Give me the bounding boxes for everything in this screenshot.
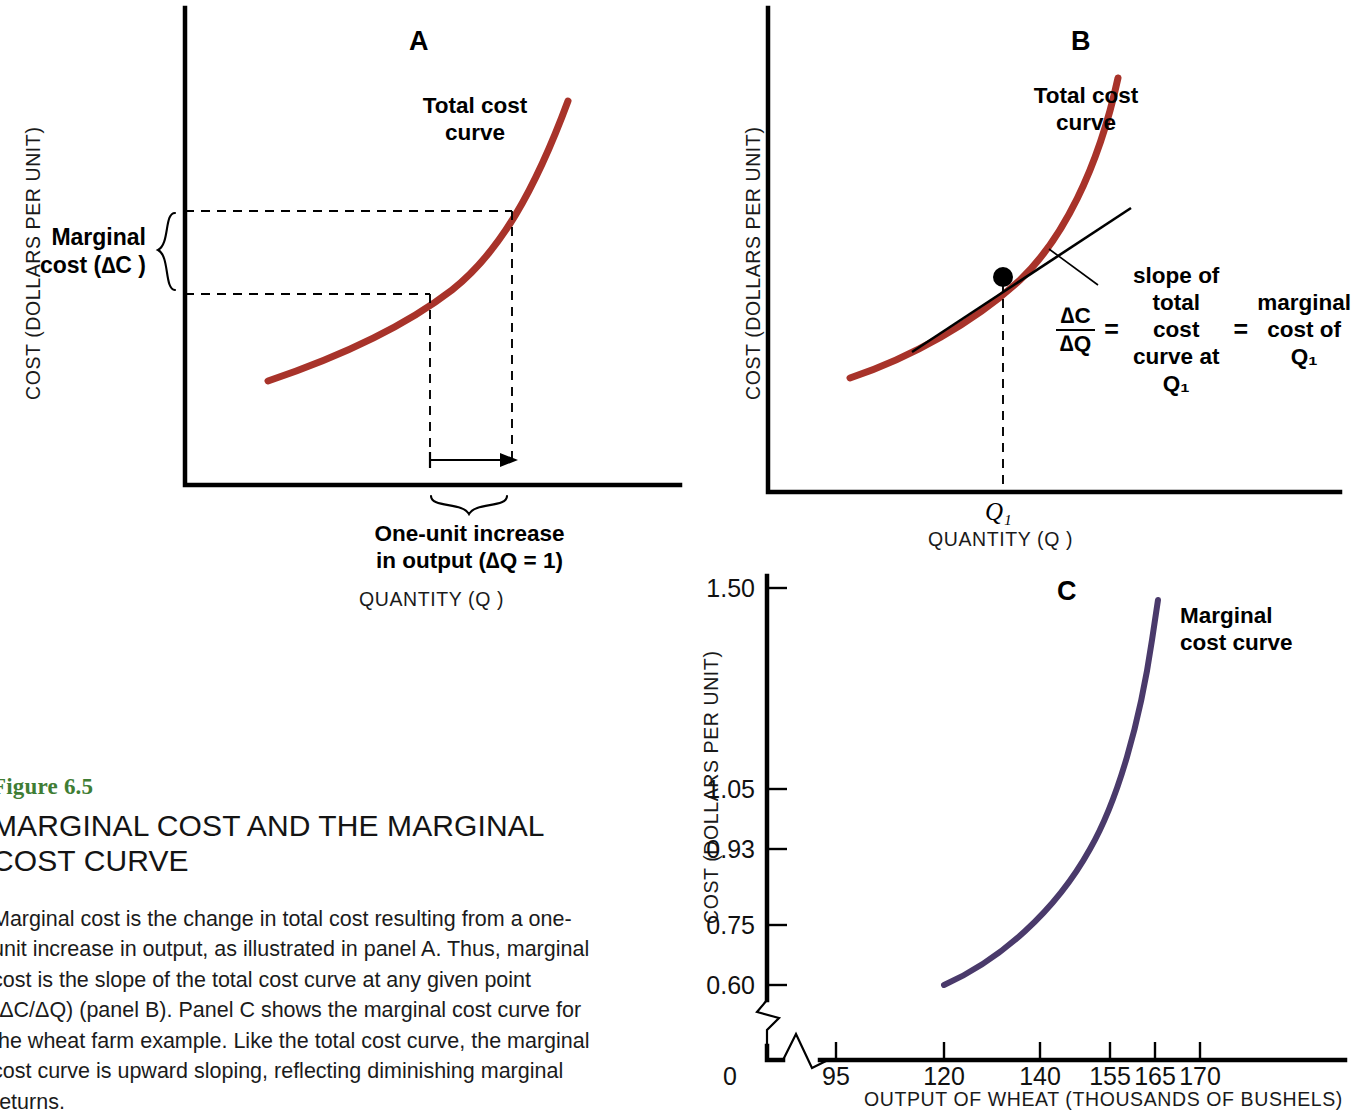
figure-body: Marginal cost is the change in total cos…: [0, 904, 632, 1111]
panel-c-x-tick-120: 120: [906, 1062, 982, 1091]
figure-number: Figure 6.5: [0, 774, 632, 800]
panel-c-y-tick-0-93: 0.93: [660, 835, 755, 864]
panel-c-x-ticks: [836, 1042, 1200, 1060]
caption-line-4: (ΔC/ΔQ) (panel B). Panel C shows the mar…: [0, 995, 632, 1026]
panel-c-x-tick-140: 140: [1002, 1062, 1078, 1091]
figure-6-5: A Total cost curve COST (DOLLARS PER UNI…: [0, 0, 1351, 1111]
panel-c-origin-corner: [767, 1046, 783, 1060]
caption-line-5: the wheat farm example. Like the total c…: [0, 1026, 632, 1057]
caption-line-1: Marginal cost is the change in total cos…: [0, 904, 632, 935]
caption-line-3: cost is the slope of the total cost curv…: [0, 965, 632, 996]
panel-c-letter: C: [1057, 576, 1077, 607]
panel-c-x-tick-95: 95: [806, 1062, 866, 1091]
figure-title: MARGINAL COST AND THE MARGINAL COST CURV…: [0, 809, 632, 879]
panel-c-y-tick-0-75: 0.75: [660, 911, 755, 940]
caption-line-7: returns.: [0, 1087, 632, 1111]
panel-c-x-tick-170: 170: [1162, 1062, 1238, 1091]
panel-c-marginal-cost-curve: [944, 600, 1158, 985]
panel-c-y-tick-0-60: 0.60: [660, 971, 755, 1000]
panel-c-y-ticks: [767, 588, 787, 985]
panel-c-y-axis-break: [757, 1000, 779, 1046]
panel-c-y-tick-1-50: 1.50: [660, 574, 755, 603]
figure-caption: Figure 6.5 MARGINAL COST AND THE MARGINA…: [0, 774, 632, 1111]
caption-line-6: cost curve is upward sloping, reflecting…: [0, 1056, 632, 1087]
caption-line-2: unit increase in output, as illustrated …: [0, 934, 632, 965]
panel-c-origin-label: 0: [710, 1062, 750, 1091]
panel-c-x-axis-title: OUTPUT OF WHEAT (THOUSANDS OF BUSHELS): [864, 1088, 1343, 1111]
panel-c-curve-label: Marginal cost curve: [1180, 603, 1350, 656]
panel-c-y-tick-1-05: 1.05: [660, 775, 755, 804]
